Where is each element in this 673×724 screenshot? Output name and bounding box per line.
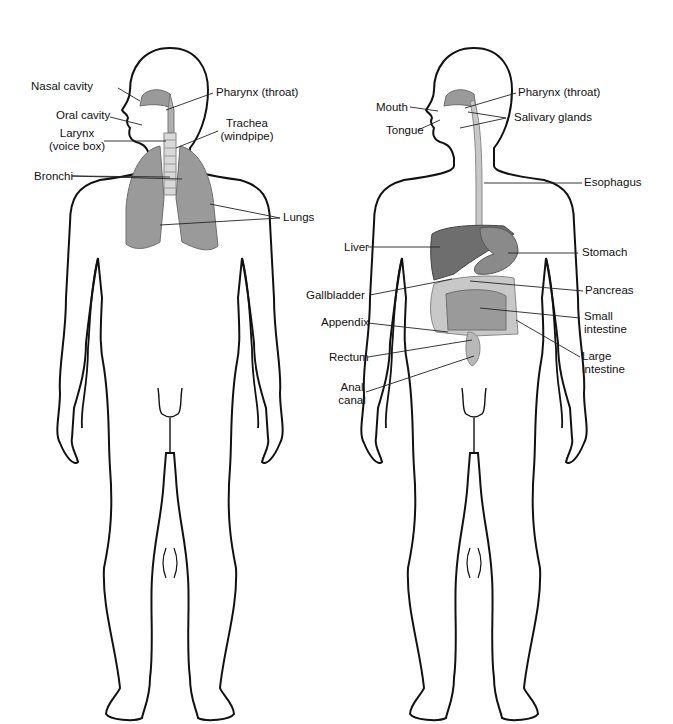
label-gallbladder: Gallbladder (306, 289, 365, 302)
label-small-intestine-line1: Small (584, 310, 627, 323)
label-large-intestine: Large intestine (582, 350, 625, 376)
label-large-intestine-line2: intestine (582, 363, 625, 376)
label-anal-canal: Anal canal (336, 381, 368, 407)
label-pharynx-right: Pharynx (throat) (518, 86, 600, 99)
label-trachea: Trachea (windpipe) (216, 117, 278, 143)
label-tongue: Tongue (386, 124, 424, 137)
label-mouth: Mouth (376, 101, 408, 114)
label-oral-cavity: Oral cavity (56, 109, 110, 122)
label-nasal-cavity: Nasal cavity (31, 80, 93, 93)
label-larynx-line1: Larynx (46, 127, 108, 140)
digestive-body-outline (361, 48, 586, 720)
label-anal-canal-line2: canal (336, 394, 368, 407)
label-liver: Liver (344, 241, 369, 254)
label-large-intestine-line1: Large (582, 350, 625, 363)
label-larynx: Larynx (voice box) (46, 127, 108, 153)
label-anal-canal-line1: Anal (336, 381, 368, 394)
label-bronchi: Bronchi (34, 170, 73, 183)
label-small-intestine-line2: intestine (584, 323, 627, 336)
label-trachea-line2: (windpipe) (216, 130, 278, 143)
label-pharynx-left: Pharynx (throat) (216, 86, 298, 99)
label-stomach: Stomach (582, 246, 627, 259)
label-appendix: Appendix (321, 316, 369, 329)
label-trachea-line1: Trachea (216, 117, 278, 130)
label-pancreas: Pancreas (585, 284, 634, 297)
label-rectum: Rectum (329, 351, 369, 364)
label-lungs: Lungs (283, 211, 314, 224)
label-esophagus: Esophagus (584, 176, 642, 189)
label-small-intestine: Small intestine (584, 310, 627, 336)
label-larynx-line2: (voice box) (46, 140, 108, 153)
label-salivary-glands: Salivary glands (514, 111, 592, 124)
